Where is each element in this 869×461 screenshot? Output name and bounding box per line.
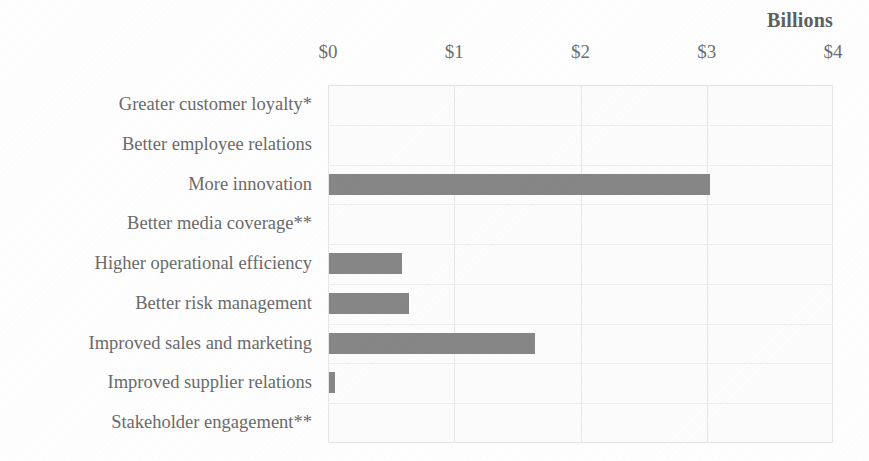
x-axis: $0$1$2$3$4	[328, 41, 833, 69]
bar-row	[328, 204, 833, 244]
y-category-label: Better media coverage**	[127, 204, 312, 244]
bar-chart: Billions $0$1$2$3$4 Greater customer loy…	[0, 0, 869, 461]
bar-row	[328, 165, 833, 205]
y-category-label: More innovation	[188, 165, 312, 205]
bar-row	[328, 284, 833, 324]
y-category-label: Improved sales and marketing	[89, 324, 312, 364]
plot-area	[328, 85, 833, 443]
units-title: Billions	[767, 9, 833, 32]
bar-row	[328, 125, 833, 165]
bar-row	[328, 363, 833, 403]
bar	[329, 333, 535, 354]
bar-row	[328, 244, 833, 284]
bars-layer	[328, 85, 833, 443]
bar	[329, 253, 402, 274]
bar-row	[328, 324, 833, 364]
y-category-label: Better employee relations	[122, 125, 312, 165]
bar	[329, 293, 409, 314]
y-category-label: Stakeholder engagement**	[111, 403, 312, 443]
bar	[329, 372, 335, 393]
y-category-label: Better risk management	[135, 284, 312, 324]
bar-row	[328, 403, 833, 443]
bar	[329, 174, 710, 195]
y-category-label: Greater customer loyalty*	[119, 85, 312, 125]
y-axis: Greater customer loyalty*Better employee…	[0, 85, 320, 443]
y-category-label: Higher operational efficiency	[95, 244, 312, 284]
x-tick-label: $0	[319, 41, 338, 63]
x-tick-label: $2	[571, 41, 590, 63]
bar-row	[328, 85, 833, 125]
x-tick-label: $3	[697, 41, 716, 63]
x-tick-label: $4	[824, 41, 843, 63]
x-tick-label: $1	[445, 41, 464, 63]
y-category-label: Improved supplier relations	[108, 363, 312, 403]
